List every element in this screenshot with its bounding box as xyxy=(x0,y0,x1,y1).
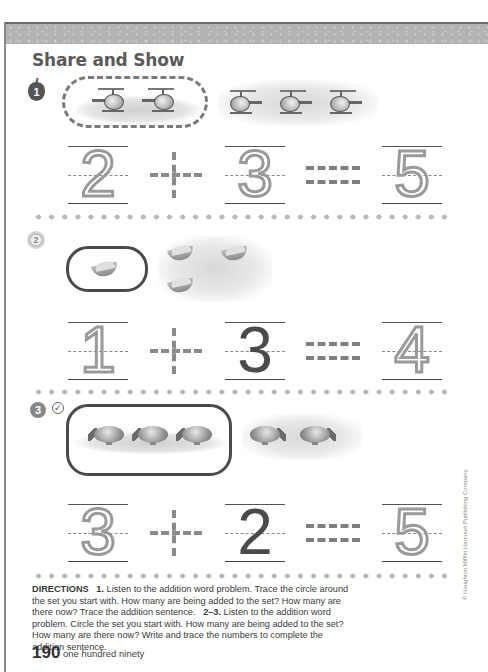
melon-slice-image xyxy=(92,260,118,276)
blimp-image xyxy=(88,424,124,446)
problem-number: 3 xyxy=(35,404,41,416)
melon-slice-image xyxy=(168,276,194,292)
dotted-divider xyxy=(32,389,452,395)
addend2-digit: 3 xyxy=(225,140,285,208)
addend2-box[interactable]: 3 xyxy=(225,144,285,206)
addend2-digit: 3 xyxy=(225,316,285,384)
equals-sign xyxy=(304,320,360,382)
melon-slice-image xyxy=(168,244,194,260)
problem-number: 2 xyxy=(33,235,38,245)
addend1-digit: 1 xyxy=(68,316,128,384)
addition-sentence-1: 2 3 5 xyxy=(0,144,488,206)
helicopter-image xyxy=(328,88,362,116)
directions-part2-label: 2–3. xyxy=(203,607,221,617)
melon-slice-image xyxy=(222,244,248,260)
plus-sign xyxy=(146,144,202,206)
addend1-box[interactable]: 1 xyxy=(68,320,128,382)
equals-sign xyxy=(304,502,360,564)
addend1-digit: 2 xyxy=(68,140,128,208)
addend1-digit: 3 xyxy=(68,498,128,566)
addend1-box[interactable]: 3 xyxy=(68,502,128,564)
blimp-image xyxy=(250,424,286,446)
apple-icon: 1 xyxy=(28,82,45,101)
addition-sentence-3: 3 2 5 xyxy=(0,502,488,564)
sum-digit: 4 xyxy=(382,316,442,384)
directions-text: DIRECTIONS 1. Listen to the addition wor… xyxy=(32,584,352,654)
gear-icon: 3 xyxy=(30,402,46,418)
sum-box[interactable]: 4 xyxy=(382,320,442,382)
plus-sign xyxy=(146,320,202,382)
copyright-notice: © Houghton Mifflin Harcourt Publishing C… xyxy=(462,469,468,600)
plus-sign xyxy=(146,502,202,564)
dotted-divider xyxy=(32,214,452,220)
page-number-words: one hundred ninety xyxy=(63,648,144,659)
sum-digit: 5 xyxy=(382,498,442,566)
blimp-image xyxy=(300,424,336,446)
sum-box[interactable]: 5 xyxy=(382,502,442,564)
dotted-divider xyxy=(32,573,452,579)
equals-sign xyxy=(304,144,360,206)
helicopter-image xyxy=(142,86,176,114)
check-circle-icon: ✓ xyxy=(52,402,64,414)
sum-box[interactable]: 5 xyxy=(382,144,442,206)
problem-number: 1 xyxy=(33,86,39,98)
blimp-image xyxy=(176,424,212,446)
addend2-box[interactable]: 2 xyxy=(225,502,285,564)
addend2-digit: 2 xyxy=(225,498,285,566)
addend2-box[interactable]: 3 xyxy=(225,320,285,382)
directions-heading: DIRECTIONS xyxy=(32,584,89,594)
helicopter-image xyxy=(228,88,262,116)
page-title: Share and Show xyxy=(32,50,184,70)
addend1-box[interactable]: 2 xyxy=(68,144,128,206)
helicopter-image xyxy=(278,88,312,116)
sun-icon: 2 xyxy=(26,230,46,250)
header-band xyxy=(6,24,488,44)
helicopter-image xyxy=(92,86,126,114)
sum-digit: 5 xyxy=(382,140,442,208)
addition-sentence-2: 1 3 4 xyxy=(0,320,488,382)
blimp-image xyxy=(132,424,168,446)
directions-part1-label: 1. xyxy=(96,584,104,594)
page-number: 190 xyxy=(32,643,60,663)
